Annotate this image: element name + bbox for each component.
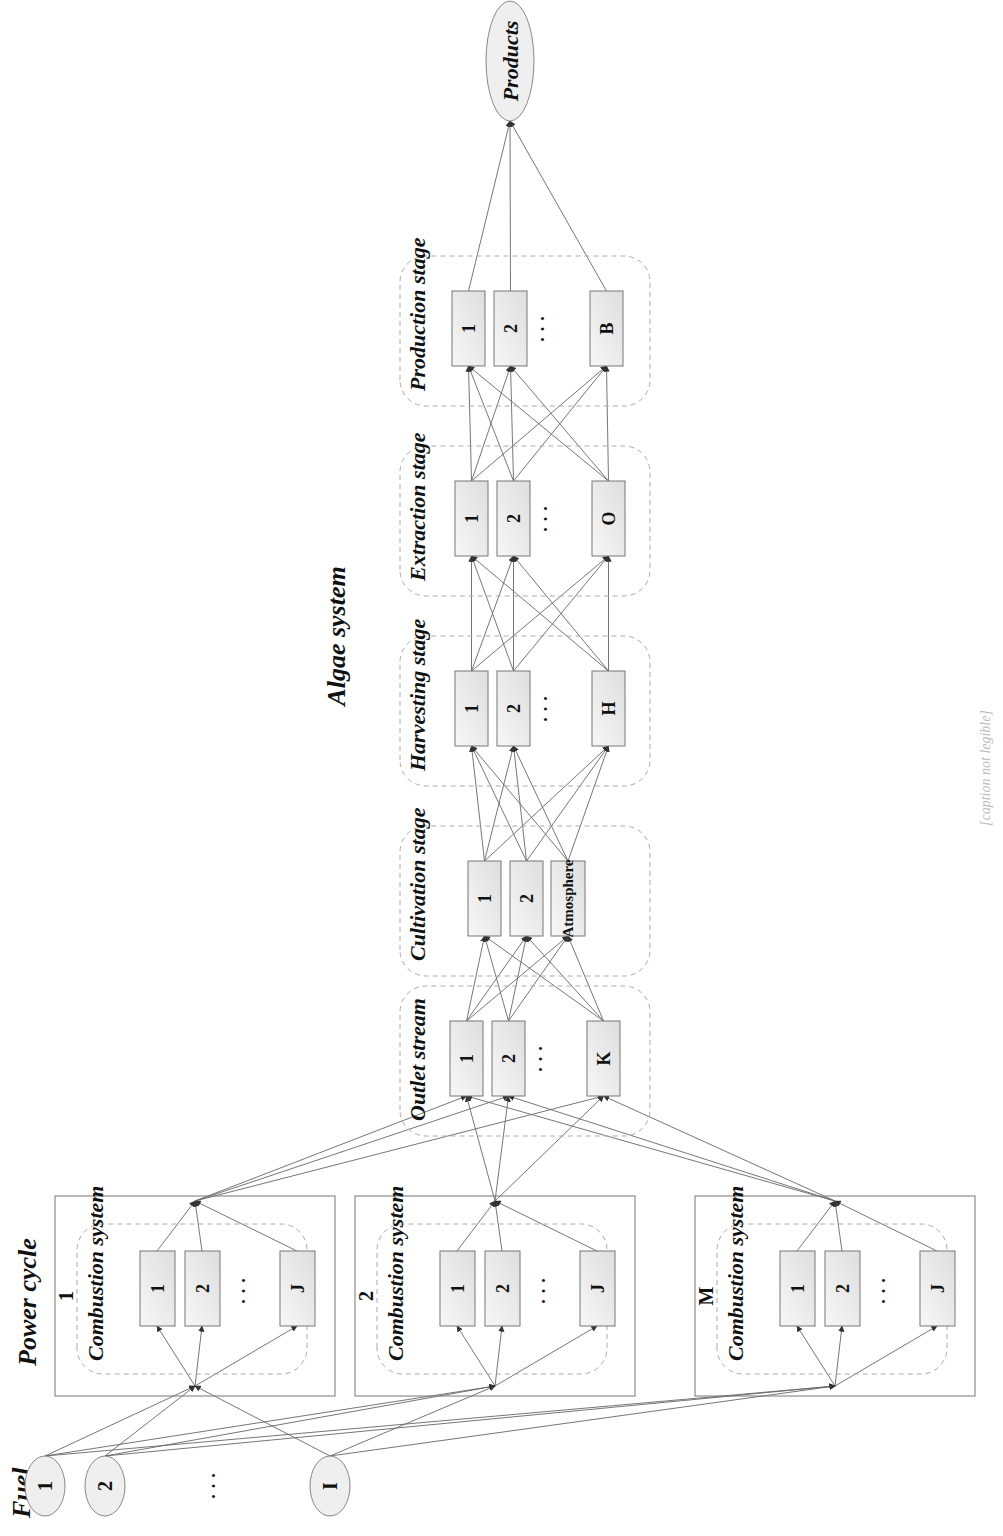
flow-arrow	[457, 1326, 495, 1386]
flow-arrow	[457, 1201, 495, 1251]
fuel-oval-label: I	[319, 1482, 341, 1490]
flow-arrow	[195, 1201, 297, 1251]
flow-arrow	[472, 746, 485, 861]
flow-arrow	[469, 366, 609, 481]
flow-arrow	[195, 1096, 509, 1201]
superstructure-diagram: Fuel12I· · ·Power cycle1Combustion syste…	[0, 0, 1003, 1536]
fuel-oval-label: 1	[34, 1481, 56, 1491]
combustion-system-node-label: 1	[148, 1284, 168, 1293]
stage-node-label: K	[594, 1051, 614, 1065]
stage-label: Outlet stream	[405, 998, 430, 1121]
flow-arrow	[469, 366, 514, 481]
stage-node-label: 1	[462, 514, 482, 523]
power-cycle-index: 1	[55, 1291, 77, 1301]
stage-node-label: 1	[459, 324, 479, 333]
power-cycle-index: M	[695, 1286, 717, 1305]
flow-arrow	[510, 121, 607, 291]
ellipsis: · · ·	[536, 505, 556, 532]
stage-node-label: H	[599, 701, 619, 715]
stage-node-label: O	[599, 511, 619, 525]
combustion-system-node-label: 2	[833, 1284, 853, 1293]
flow-arrow	[467, 1096, 836, 1201]
power-cycle-title: Power cycle	[13, 1238, 42, 1367]
stage-node-label: 1	[475, 894, 495, 903]
ellipsis: · · ·	[534, 1277, 554, 1304]
flow-arrow	[514, 746, 569, 861]
flow-arrow	[495, 1201, 597, 1251]
figure-caption-unread: [caption not legible]	[978, 710, 993, 826]
products-label: Products	[498, 21, 523, 103]
combustion-system-node-label: 2	[193, 1284, 213, 1293]
stage-node-label: 1	[462, 704, 482, 713]
ellipsis: · · ·	[874, 1277, 894, 1304]
flow-arrow	[835, 1201, 842, 1251]
stage-label: Cultivation stage	[405, 807, 430, 961]
fuel-oval-label: 2	[94, 1481, 116, 1491]
combustion-system-label: Combustion system	[383, 1186, 408, 1361]
combustion-system-node-label: J	[928, 1284, 948, 1293]
flow-arrow	[469, 121, 511, 291]
flow-arrow	[469, 366, 472, 481]
stage-label: Harvesting stage	[405, 619, 430, 772]
flow-arrow	[467, 1096, 496, 1201]
flow-arrow	[511, 366, 514, 481]
flow-arrow	[495, 1326, 502, 1386]
combustion-system-node-label: J	[588, 1284, 608, 1293]
stage-node-label: B	[597, 322, 617, 334]
stage-node-label: 2	[504, 514, 524, 523]
ellipsis: · · ·	[536, 695, 556, 722]
diagram-stage: Fuel12I· · ·Power cycle1Combustion syste…	[0, 0, 1003, 1536]
flow-arrow	[195, 1326, 202, 1386]
stage-label: Extraction stage	[405, 432, 430, 582]
power-cycle-index: 2	[355, 1291, 377, 1301]
flow-arrow	[195, 1326, 297, 1386]
flow-arrow	[835, 1326, 842, 1386]
combustion-system-node-label: 1	[448, 1284, 468, 1293]
flow-arrow	[485, 936, 509, 1021]
ellipsis: · · ·	[531, 1045, 551, 1072]
combustion-system-node-label: 2	[493, 1284, 513, 1293]
flow-arrow	[511, 366, 609, 481]
flow-arrow	[495, 1096, 604, 1201]
flow-arrow	[472, 746, 569, 861]
combustion-system-label: Combustion system	[723, 1186, 748, 1361]
stage-node-label: 2	[504, 704, 524, 713]
ellipsis: · · ·	[234, 1277, 254, 1304]
stage-node-label: 2	[499, 1054, 519, 1063]
flow-arrow	[568, 746, 609, 861]
stage-label: Production stage	[405, 237, 430, 392]
flow-arrow	[195, 1201, 202, 1251]
stage-node-label: 1	[457, 1054, 477, 1063]
stage-node-label: 2	[517, 894, 537, 903]
flow-arrow	[607, 366, 609, 481]
flow-arrow	[495, 1096, 509, 1201]
flow-arrow	[835, 1201, 937, 1251]
flow-arrow	[495, 1201, 502, 1251]
flow-arrow	[527, 746, 609, 861]
flow-arrow	[157, 1326, 195, 1386]
flow-arrow	[472, 746, 527, 861]
flow-arrow	[509, 1096, 836, 1201]
ellipsis: · · ·	[204, 1472, 224, 1499]
flow-nodes: Fuel12I· · ·Power cycle1Combustion syste…	[7, 1, 993, 1519]
flow-arrow	[797, 1326, 835, 1386]
flow-arrow	[157, 1201, 195, 1251]
stage-node-label: Atmosphere	[560, 859, 576, 937]
algae-system-title: Algae system	[322, 566, 351, 707]
flow-arrow	[510, 121, 511, 291]
flow-arrow	[604, 1096, 836, 1201]
flow-arrow	[485, 746, 609, 861]
ellipsis: · · ·	[533, 315, 553, 342]
combustion-system-label: Combustion system	[83, 1186, 108, 1361]
flow-arrow	[797, 1201, 835, 1251]
combustion-system-node-label: 1	[788, 1284, 808, 1293]
combustion-system-node-label: J	[288, 1284, 308, 1293]
stage-node-label: 2	[501, 324, 521, 333]
flow-arrow	[835, 1326, 937, 1386]
flow-arrow	[495, 1326, 597, 1386]
